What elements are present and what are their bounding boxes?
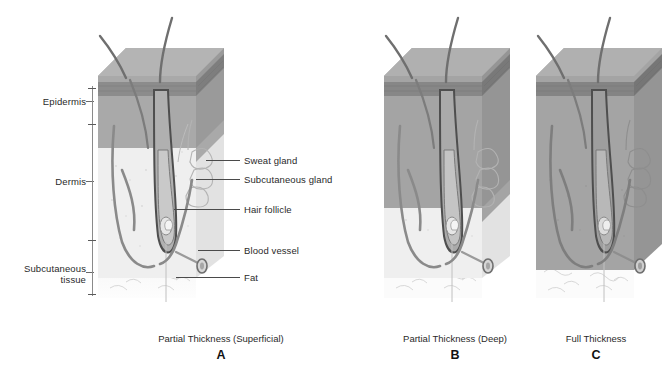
panel-a xyxy=(96,30,226,310)
layer-label-epidermis: Epidermis xyxy=(10,96,86,107)
layer-bracket xyxy=(92,86,93,296)
bracket-tick-epidermis-dermis xyxy=(88,124,96,125)
panel-a-caption: Partial Thickness (Superficial) xyxy=(88,333,354,344)
leader-blood-vessel xyxy=(198,250,240,251)
figure-canvas: Epidermis Dermis Subcutaneous tissue xyxy=(0,0,664,370)
leader-sweat-gland xyxy=(206,160,240,161)
leader-hair-follicle xyxy=(174,209,240,210)
layer-label-dermis: Dermis xyxy=(10,176,86,187)
panel-c-letter: C xyxy=(528,348,664,362)
panel-c xyxy=(534,30,664,310)
panel-b xyxy=(382,30,512,310)
callout-label-subcutaneous-gland: Subcutaneous gland xyxy=(244,174,332,185)
panel-a-letter: A xyxy=(88,348,354,362)
bracket-tick-bottom xyxy=(88,294,96,295)
layer-label-subcutaneous-tissue: Subcutaneous tissue xyxy=(4,263,86,285)
bracket-tick-top xyxy=(88,88,96,89)
skin-block-a xyxy=(96,30,226,310)
callout-label-sweat-gland: Sweat gland xyxy=(244,155,297,166)
callout-label-blood-vessel: Blood vessel xyxy=(244,245,299,256)
panel-b-caption: Partial Thickness (Deep) xyxy=(360,333,550,344)
leader-subcutaneous-gland xyxy=(196,179,240,180)
callout-label-fat: Fat xyxy=(244,272,258,283)
skin-block-b xyxy=(382,30,512,310)
callout-label-hair-follicle: Hair follicle xyxy=(244,204,292,215)
panel-c-caption: Full Thickness xyxy=(528,333,664,344)
panel-b-letter: B xyxy=(360,348,550,362)
skin-block-c xyxy=(534,30,664,310)
leader-fat xyxy=(176,277,240,278)
bracket-tick-dermis-subcutaneous xyxy=(88,240,96,241)
